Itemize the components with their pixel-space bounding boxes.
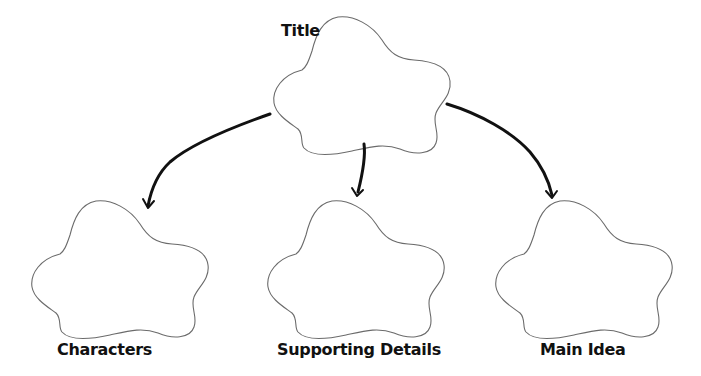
cloud-supporting-details[interactable] bbox=[268, 201, 444, 339]
arrow-to-supporting-details bbox=[352, 144, 365, 196]
concept-map-canvas bbox=[0, 0, 701, 376]
label-supporting-details: Supporting Details bbox=[277, 340, 441, 359]
arrow-to-characters bbox=[143, 114, 270, 208]
arrow-to-main-idea bbox=[447, 104, 557, 198]
label-title: Title bbox=[281, 21, 320, 40]
cloud-main-idea[interactable] bbox=[496, 201, 672, 339]
label-characters: Characters bbox=[57, 340, 152, 359]
label-main-idea: Main Idea bbox=[540, 340, 626, 359]
cloud-characters[interactable] bbox=[32, 201, 208, 339]
